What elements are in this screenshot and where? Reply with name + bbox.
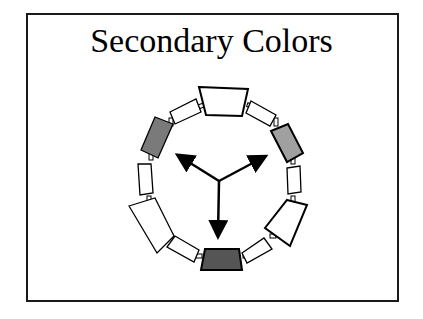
wheel-segment-upper-left-secondary — [141, 117, 173, 158]
wheel-segment-top — [199, 87, 248, 116]
wheel-segment-left-large — [129, 198, 174, 253]
wheel-arrows — [179, 156, 264, 235]
wheel-segment-lower-left-small — [167, 236, 199, 262]
wheel-segment-upper-right-secondary — [271, 124, 303, 162]
wheel-segment-top-right-small — [246, 101, 276, 126]
wheel-segment-right-large — [265, 200, 307, 246]
wheel-segment-left-small — [138, 164, 153, 195]
wheel-segment-top-left-small — [170, 99, 201, 124]
wheel-segment-lower-right-small — [242, 238, 272, 263]
wheel-segment-right-small — [287, 166, 301, 194]
color-wheel-diagram — [0, 0, 423, 319]
wheel-segment-bottom-secondary — [201, 249, 242, 270]
